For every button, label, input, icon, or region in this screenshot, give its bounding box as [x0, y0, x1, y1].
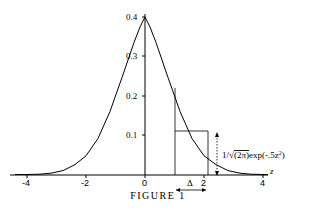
density-formula: 1/√(2π)exp(-.5z2) [222, 150, 285, 160]
y-tick-label: 0.1 [126, 130, 137, 140]
z-axis-label: z [269, 166, 274, 176]
y-tick-label: 0.2 [126, 91, 137, 101]
x-tick-label: 2 [201, 178, 206, 188]
normal-density-chart: -4 -2 0 2 4 0.1 0.2 0.3 0.4 z 1/√(2π)exp… [0, 0, 316, 214]
arrow-up-icon [215, 132, 219, 137]
x-tick-label: -2 [81, 178, 89, 188]
x-tick-label: 0 [142, 178, 147, 188]
figure-caption: FIGURE 1 [0, 190, 316, 201]
delta-label: Δ [187, 178, 193, 188]
y-tick-label: 0.4 [126, 12, 138, 22]
x-tick-label: -4 [22, 178, 30, 188]
x-tick-label: 4 [260, 178, 265, 188]
